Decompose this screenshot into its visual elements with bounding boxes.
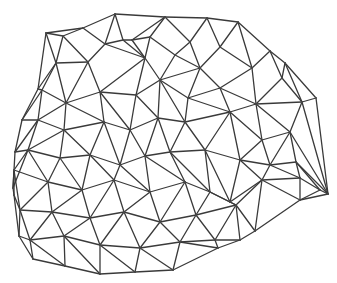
mesh-edge xyxy=(215,205,236,240)
mesh-edge xyxy=(114,180,150,192)
mesh-vertex xyxy=(64,265,66,267)
mesh-edge xyxy=(145,156,150,192)
mesh-vertex xyxy=(12,187,14,189)
mesh-edge xyxy=(64,236,65,266)
mesh-vertex xyxy=(144,155,146,157)
mesh-vertex xyxy=(174,54,176,56)
mesh-edge xyxy=(190,18,207,42)
mesh-edge xyxy=(30,236,64,240)
mesh-vertex xyxy=(184,181,186,183)
mesh-edge xyxy=(63,36,88,62)
mesh-edge xyxy=(256,78,282,104)
mesh-edge xyxy=(64,122,104,130)
mesh-vertex xyxy=(319,189,321,191)
mesh-edge xyxy=(205,150,240,160)
mesh-edge xyxy=(200,68,220,88)
mesh-vertex xyxy=(195,214,197,216)
mesh-edge xyxy=(90,212,124,218)
mesh-vertex xyxy=(27,149,29,151)
mesh-edge xyxy=(290,102,302,132)
mesh-edge xyxy=(185,98,188,122)
mesh-edge xyxy=(207,18,220,47)
mesh-vertex xyxy=(103,121,105,123)
mesh-edge xyxy=(145,37,150,58)
mesh-vertex xyxy=(135,94,137,96)
mesh-edge xyxy=(262,140,270,165)
mesh-edge xyxy=(82,155,90,190)
mesh-vertex xyxy=(239,159,241,161)
mesh-edge xyxy=(230,202,236,205)
mesh-edge xyxy=(105,40,123,44)
mesh-edge xyxy=(130,130,145,156)
mesh-edge xyxy=(160,80,188,98)
mesh-edge xyxy=(60,155,90,158)
mesh-vertex xyxy=(327,193,329,195)
mesh-edge xyxy=(150,17,165,37)
mesh-vertex xyxy=(299,199,301,201)
mesh-edge xyxy=(130,118,158,130)
mesh-edge xyxy=(38,33,46,89)
mesh-vertex xyxy=(149,36,151,38)
mesh-edge xyxy=(64,236,100,274)
mesh-edge xyxy=(218,240,240,248)
mesh-edge xyxy=(105,14,115,44)
mesh-vertex xyxy=(45,32,47,34)
mesh-edge xyxy=(140,222,160,248)
mesh-vertex xyxy=(251,67,253,69)
mesh-edge xyxy=(52,212,90,218)
mesh-vertex xyxy=(18,235,20,237)
mesh-vertex xyxy=(209,191,211,193)
mesh-vertex xyxy=(144,57,146,59)
mesh-vertex xyxy=(63,235,65,237)
mesh-vertex xyxy=(214,239,216,241)
mesh-edge xyxy=(252,68,256,104)
mesh-vertex xyxy=(139,247,141,249)
mesh-vertex xyxy=(99,273,101,275)
mesh-edge xyxy=(270,165,300,178)
mesh-edge xyxy=(196,205,236,215)
mesh-edge xyxy=(56,63,66,103)
mesh-edge xyxy=(114,165,120,180)
mesh-vertex xyxy=(255,103,257,105)
mesh-edge xyxy=(240,231,255,240)
mesh-edge xyxy=(48,182,52,212)
mesh-edge xyxy=(64,103,66,130)
mesh-vertex xyxy=(113,179,115,181)
mesh-vertex xyxy=(206,17,208,19)
mesh-edge xyxy=(135,270,173,272)
mesh-edge xyxy=(255,180,262,231)
mesh-vertex xyxy=(315,97,317,99)
mesh-edge xyxy=(42,90,66,103)
mesh-edge xyxy=(46,33,56,63)
mesh-vertex xyxy=(204,149,206,151)
mesh-vertex xyxy=(295,161,297,163)
mesh-edge xyxy=(252,51,270,68)
mesh-edge xyxy=(115,14,165,17)
mesh-edge xyxy=(100,272,135,274)
mesh-edge xyxy=(173,248,218,270)
mesh-edge xyxy=(88,62,100,92)
mesh-vertex xyxy=(41,89,43,91)
mesh-vertex xyxy=(159,79,161,81)
mesh-edge xyxy=(140,248,173,270)
mesh-edge xyxy=(158,80,160,118)
mesh-vertex xyxy=(123,211,125,213)
mesh-vertex xyxy=(14,151,16,153)
mesh-edge xyxy=(20,210,30,240)
mesh-vertex xyxy=(189,41,191,43)
mesh-edge xyxy=(46,33,63,36)
mesh-vertex xyxy=(89,217,91,219)
mesh-vertex xyxy=(284,62,286,64)
mesh-vertex xyxy=(187,97,189,99)
mesh-vertex xyxy=(172,269,174,271)
mesh-vertex xyxy=(19,209,21,211)
mesh-edge xyxy=(56,62,88,63)
mesh-vertex xyxy=(235,204,237,206)
mesh-vertex xyxy=(229,201,231,203)
mesh-edge xyxy=(135,248,140,272)
mesh-edge xyxy=(105,44,145,58)
mesh-vertex xyxy=(81,189,83,191)
mesh-vertex xyxy=(47,181,49,183)
mesh-vertex xyxy=(99,244,101,246)
mesh-vertex xyxy=(29,239,31,241)
